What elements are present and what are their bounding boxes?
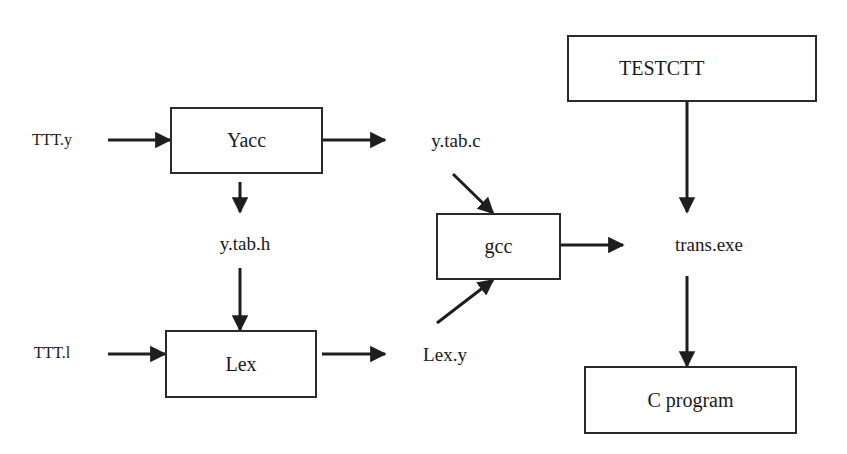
- c-program-label: C program: [647, 389, 733, 412]
- testctt-label: TESTCTT: [619, 57, 705, 80]
- lex-y-label: Lex.y: [423, 344, 467, 366]
- ttt-y-label: TTT.y: [32, 131, 72, 149]
- testctt-box: TESTCTT: [567, 35, 817, 102]
- y-tab-c-label: y.tab.c: [431, 130, 480, 152]
- gcc-box: gcc: [436, 213, 561, 280]
- trans-exe-label: trans.exe: [675, 234, 743, 256]
- y-tab-h-label: y.tab.h: [220, 233, 270, 255]
- lex-label: Lex: [225, 353, 256, 376]
- ttt-l-label: TTT.l: [34, 344, 71, 362]
- yacc-box: Yacc: [170, 107, 323, 174]
- yacc-label: Yacc: [227, 129, 266, 152]
- gcc-label: gcc: [485, 235, 513, 258]
- arrow-ytabc-to-gcc: [453, 174, 493, 213]
- arrow-lexy-to-gcc: [437, 280, 493, 323]
- lex-box: Lex: [165, 330, 317, 398]
- c-program-box: C program: [584, 366, 797, 434]
